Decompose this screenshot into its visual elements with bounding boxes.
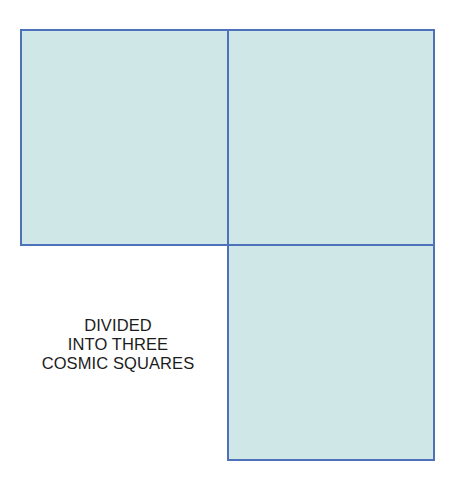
- caption: DIVIDED INTO THREE COSMIC SQUARES: [18, 316, 218, 373]
- square-bottom-right: [227, 244, 435, 461]
- caption-line-2: INTO THREE: [18, 335, 218, 354]
- square-top-right: [227, 29, 435, 246]
- caption-line-3: COSMIC SQUARES: [18, 354, 218, 373]
- caption-line-1: DIVIDED: [18, 316, 218, 335]
- square-top-left: [20, 29, 230, 246]
